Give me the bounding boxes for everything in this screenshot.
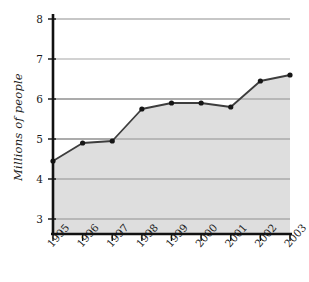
y-tick-label-5: 5 xyxy=(36,133,43,145)
data-point-1996 xyxy=(80,140,85,145)
y-tick-label-6: 6 xyxy=(36,93,43,105)
data-point-1997 xyxy=(110,138,115,143)
y-tick-label-4: 4 xyxy=(36,173,43,185)
data-point-1998 xyxy=(139,106,144,111)
y-axis-title: Millions of people xyxy=(11,73,25,182)
area-chart: 345678 199519961997199819992000200120022… xyxy=(0,0,309,282)
chart-container: 345678 199519961997199819992000200120022… xyxy=(0,0,309,282)
data-point-2002 xyxy=(258,78,263,83)
data-point-2000 xyxy=(199,100,204,105)
data-point-2003 xyxy=(287,72,292,77)
y-axis-tick-labels: 345678 xyxy=(36,13,43,225)
data-point-2001 xyxy=(228,104,233,109)
y-tick-label-8: 8 xyxy=(36,13,43,25)
data-point-1999 xyxy=(169,100,174,105)
y-tick-label-3: 3 xyxy=(36,213,43,225)
y-tick-label-7: 7 xyxy=(36,53,43,65)
